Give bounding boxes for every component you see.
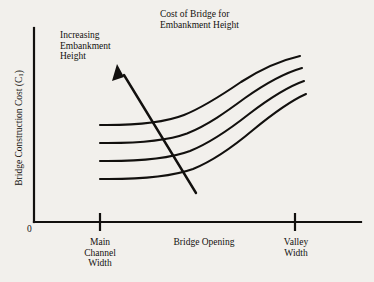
cost-curve-2: [100, 68, 302, 143]
increasing-embankment-arrow-head: [112, 64, 130, 88]
origin-label: 0: [27, 224, 32, 235]
x-tick-label-valley-width: Valley Width: [268, 237, 324, 258]
cost-curve-3: [100, 81, 304, 161]
x-tick-label-main-channel-width: Main Channel Width: [72, 237, 128, 269]
y-axis-label-tail: ): [14, 70, 24, 73]
y-axis-label-subscript: 1: [17, 73, 25, 77]
chart-figure: Cost of Bridge for Embankment Height Bri…: [0, 0, 374, 282]
x-axis-label: Bridge Opening: [152, 237, 256, 248]
cost-curve-1: [100, 56, 300, 125]
y-axis-label-base: Bridge Construction Cost (C: [14, 77, 24, 186]
chart-title: Cost of Bridge for Embankment Height: [160, 9, 239, 30]
annotation-increasing-embankment-height: Increasing Embankment Height: [60, 30, 111, 62]
y-axis-label: Bridge Construction Cost (C1): [14, 39, 26, 217]
